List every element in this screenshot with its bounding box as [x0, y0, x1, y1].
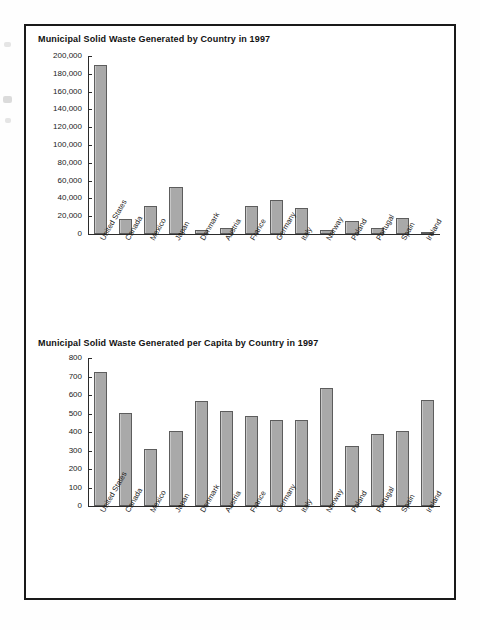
x-axis-line — [88, 506, 440, 507]
y-tick-label: 120,000 — [53, 123, 82, 131]
y-tick-label: 400 — [69, 428, 82, 436]
chart-total-waste: Municipal Solid Waste Generated by Count… — [26, 34, 454, 334]
y-tick-label: 200,000 — [53, 52, 82, 60]
y-tick-label: 180,000 — [53, 70, 82, 78]
y-tick-label: 500 — [69, 410, 82, 418]
bar — [119, 413, 132, 506]
y-tick-label: 140,000 — [53, 105, 82, 113]
plot-area: 0100200300400500600700800United StatesCa… — [26, 338, 454, 600]
bar-series — [88, 56, 440, 234]
y-tick-label: 200 — [69, 465, 82, 473]
y-tick-label: 600 — [69, 391, 82, 399]
x-axis-labels: United StatesCanadaMexicoJapanDenmarkAus… — [88, 510, 440, 570]
chart-waste-per-capita: Municipal Solid Waste Generated per Capi… — [26, 338, 454, 600]
bar — [94, 372, 107, 506]
bar-series — [88, 358, 440, 506]
y-axis-labels: 0100200300400500600700800 — [26, 358, 82, 506]
figure-border: Municipal Solid Waste Generated by Count… — [24, 24, 456, 600]
y-tick-label: 100,000 — [53, 141, 82, 149]
bar — [270, 420, 283, 506]
y-tick-label: 0 — [78, 502, 82, 510]
x-axis-line — [88, 234, 440, 235]
y-tick-label: 100 — [69, 484, 82, 492]
x-axis-labels: United StatesCanadaMexicoJapanDenmarkAus… — [88, 238, 440, 298]
page-canvas: Municipal Solid Waste Generated by Count… — [0, 0, 480, 630]
scan-artifact — [5, 118, 11, 123]
y-tick-label: 160,000 — [53, 88, 82, 96]
plot-area: 020,00040,00060,00080,000100,000120,0001… — [26, 34, 454, 334]
y-tick-label: 300 — [69, 447, 82, 455]
bar — [94, 65, 107, 234]
bar — [421, 400, 434, 506]
y-tick-label: 800 — [69, 354, 82, 362]
scan-artifact — [3, 96, 12, 103]
bar — [220, 411, 233, 506]
bar — [320, 388, 333, 506]
y-tick-label: 60,000 — [58, 177, 82, 185]
bar — [195, 401, 208, 506]
bar — [295, 420, 308, 506]
y-tick-label: 40,000 — [58, 194, 82, 202]
y-tick-label: 700 — [69, 373, 82, 381]
scan-artifact — [4, 42, 11, 47]
y-tick-label: 0 — [78, 230, 82, 238]
y-tick-label: 20,000 — [58, 212, 82, 220]
y-axis-labels: 020,00040,00060,00080,000100,000120,0001… — [26, 56, 82, 234]
y-tick-label: 80,000 — [58, 159, 82, 167]
bar — [245, 416, 258, 506]
